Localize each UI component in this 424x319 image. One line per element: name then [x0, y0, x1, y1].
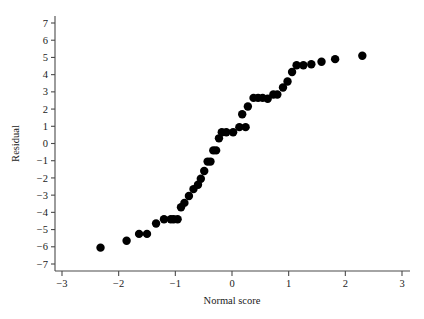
data-point — [317, 58, 325, 66]
y-tick-label: −5 — [37, 224, 48, 235]
data-point — [180, 199, 188, 207]
y-tick-label: 4 — [43, 69, 49, 80]
data-point — [173, 215, 181, 223]
y-tick-label: 0 — [43, 138, 48, 149]
y-tick-label: 2 — [43, 104, 48, 115]
data-point — [307, 60, 315, 68]
chart-page: −7−6−5−4−3−2−101234567 −3−2−10123 Normal… — [0, 0, 424, 319]
x-tick-label: −2 — [113, 278, 124, 289]
x-tick-label: −1 — [170, 278, 181, 289]
x-tick-label: 0 — [229, 278, 234, 289]
y-tick-label: 7 — [43, 18, 48, 29]
y-axis-title: Residual — [10, 125, 21, 162]
data-point — [96, 243, 104, 251]
data-point — [358, 52, 366, 60]
chart-canvas: −7−6−5−4−3−2−101234567 −3−2−10123 Normal… — [0, 0, 424, 319]
data-points-group — [96, 52, 366, 252]
data-point — [143, 230, 151, 238]
y-tick-label: 6 — [43, 35, 48, 46]
data-point — [206, 157, 214, 165]
data-point — [185, 192, 193, 200]
y-tick-label: −7 — [37, 259, 48, 270]
x-tick-label: −3 — [56, 278, 67, 289]
x-axis-title: Normal score — [204, 295, 261, 306]
x-axis: −3−2−10123 — [55, 271, 410, 289]
x-tick-label: 2 — [343, 278, 348, 289]
data-point — [241, 123, 249, 131]
data-point — [299, 61, 307, 69]
data-point — [273, 90, 281, 98]
y-tick-label: −4 — [37, 207, 49, 218]
scatter-plot: −7−6−5−4−3−2−101234567 −3−2−10123 Normal… — [0, 0, 424, 319]
y-tick-label: −2 — [37, 173, 48, 184]
data-point — [288, 68, 296, 76]
y-tick-label: −1 — [37, 155, 48, 166]
data-point — [200, 167, 208, 175]
data-point — [244, 102, 252, 110]
data-point — [122, 237, 130, 245]
y-tick-label: −6 — [37, 241, 48, 252]
x-tick-label: 3 — [399, 278, 404, 289]
y-tick-label: 5 — [43, 52, 48, 63]
data-point — [331, 55, 339, 63]
y-tick-label: −3 — [37, 190, 48, 201]
data-point — [212, 146, 220, 154]
x-tick-label: 1 — [286, 278, 291, 289]
y-tick-label: 3 — [43, 86, 48, 97]
data-point — [152, 219, 160, 227]
y-axis: −7−6−5−4−3−2−101234567 — [37, 16, 55, 271]
data-point — [238, 110, 246, 118]
data-point — [197, 175, 205, 183]
y-tick-label: 1 — [43, 121, 48, 132]
data-point — [283, 77, 291, 85]
data-point — [135, 230, 143, 238]
